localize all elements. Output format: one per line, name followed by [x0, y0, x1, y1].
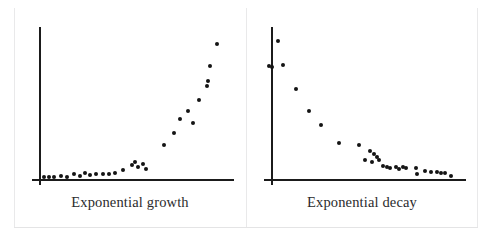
data-point	[83, 171, 87, 175]
data-point	[59, 174, 63, 178]
data-point	[94, 172, 98, 176]
data-point	[414, 166, 418, 170]
data-point	[88, 173, 92, 177]
scatter-plot-growth	[14, 8, 246, 193]
data-point	[186, 109, 190, 113]
data-point	[78, 174, 82, 178]
data-point	[121, 168, 125, 172]
data-point	[191, 121, 195, 125]
data-point	[208, 64, 212, 68]
data-point	[363, 158, 367, 162]
data-point	[270, 65, 274, 69]
caption-exponential-growth: Exponential growth	[14, 194, 246, 211]
data-point	[205, 84, 209, 88]
data-point	[215, 42, 219, 46]
x-axis-line	[32, 179, 234, 181]
data-point	[294, 87, 298, 91]
data-point	[281, 63, 285, 67]
data-point	[144, 167, 148, 171]
data-point	[449, 174, 453, 178]
data-point	[47, 175, 51, 179]
data-point	[370, 160, 374, 164]
panel-exponential-decay: Exponential decay	[246, 8, 478, 228]
x-axis-line	[264, 179, 466, 181]
data-point	[101, 172, 105, 176]
data-point	[443, 171, 447, 175]
data-point	[319, 123, 323, 127]
data-point	[197, 98, 201, 102]
data-point	[133, 160, 137, 164]
data-point	[206, 79, 210, 83]
data-point	[337, 141, 341, 145]
data-point	[178, 117, 182, 121]
scatter-plot-decay	[246, 8, 478, 193]
data-point	[307, 109, 311, 113]
data-point	[415, 172, 419, 176]
caption-exponential-decay: Exponential decay	[246, 194, 478, 211]
data-point	[429, 170, 433, 174]
y-axis-line	[39, 27, 41, 185]
data-point	[172, 131, 176, 135]
data-point	[404, 166, 408, 170]
data-point	[72, 172, 76, 176]
data-point	[423, 169, 427, 173]
data-point	[162, 143, 166, 147]
panel-exponential-growth: Exponential growth	[14, 8, 246, 228]
data-point	[113, 171, 117, 175]
data-point	[276, 39, 280, 43]
data-point	[141, 162, 145, 166]
data-point	[65, 175, 69, 179]
data-point	[107, 172, 111, 176]
figure-container: Exponential growth Exponential decay	[0, 0, 492, 242]
data-point	[357, 143, 361, 147]
data-point	[435, 170, 439, 174]
data-point	[136, 165, 140, 169]
data-point	[388, 166, 392, 170]
y-axis-line	[271, 27, 273, 185]
data-point	[377, 158, 381, 162]
